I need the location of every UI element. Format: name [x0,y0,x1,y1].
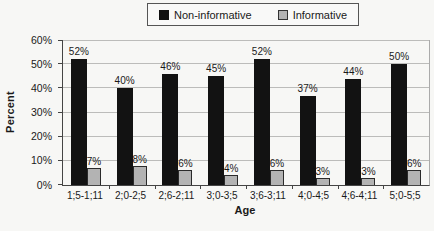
bar-group: 44%3% [338,40,384,185]
y-tick-label: 50% [0,59,52,70]
y-axis-tick [58,136,62,137]
legend-label-informative: Informative [293,9,347,21]
bar-non-informative: 52% [71,59,87,185]
y-tick-label: 10% [0,155,52,166]
bar-value-label: 40% [115,75,135,86]
y-tick-label: 60% [0,35,52,46]
bar-group: 52%6% [246,40,292,185]
bar-non-informative: 40% [117,88,133,185]
bar-value-label: 8% [132,154,146,165]
x-axis-tick [246,186,247,189]
y-tick-label: 20% [0,131,52,142]
x-axis-tick [292,186,293,189]
bar-value-label: 37% [298,83,318,94]
x-category-label: 5;0-5;5 [382,190,428,201]
bar-group: 37%3% [292,40,338,185]
y-axis-tick [58,40,62,41]
x-axis-title: Age [62,204,428,216]
bar-informative: 3% [361,178,375,185]
y-tick-label: 40% [0,83,52,94]
bar-group: 50%6% [383,40,429,185]
x-axis-tick [338,186,339,189]
bar-value-label: 6% [270,158,284,169]
bar-value-label: 44% [343,66,363,77]
bar-value-label: 3% [361,166,375,177]
plot-area: 52%7%40%8%46%6%45%4%52%6%37%3%44%3%50%6% [62,40,430,186]
informative-swatch-icon [278,10,288,20]
x-category-label: 4;0-4;5 [291,190,337,201]
bar-group: 52%7% [63,40,109,185]
y-axis-tick [58,184,62,185]
x-category-label: 4;6-4;11 [337,190,383,201]
x-category-label: 2;6-2;11 [154,190,200,201]
y-tick-label: 30% [0,107,52,118]
bar-value-label: 6% [407,158,421,169]
x-axis-tick [109,186,110,189]
x-category-label: 2;0-2;5 [108,190,154,201]
y-tick-label: 0% [0,180,52,191]
x-category-label: 3;6-3;11 [245,190,291,201]
y-axis-tick [58,87,62,88]
bar-groups: 52%7%40%8%46%6%45%4%52%6%37%3%44%3%50%6% [63,40,429,185]
bar-informative: 6% [270,170,284,185]
chart-legend: Non-informative Informative [147,3,359,26]
bar-informative: 4% [224,175,238,185]
bar-group: 45%4% [200,40,246,185]
non-informative-swatch-icon [159,10,169,20]
x-category-label: 1;5-1;11 [62,190,108,201]
bar-non-informative: 37% [300,96,316,185]
bar-chart-figure: Non-informative Informative Percent 0%10… [0,0,434,231]
bar-value-label: 7% [87,156,101,167]
bar-informative: 8% [133,166,147,185]
bar-group: 46%6% [155,40,201,185]
bar-informative: 6% [407,170,421,185]
bar-non-informative: 46% [162,74,178,185]
bar-value-label: 4% [224,163,238,174]
bar-value-label: 6% [178,158,192,169]
bar-value-label: 52% [69,46,89,57]
y-axis-tick [58,112,62,113]
bar-non-informative: 44% [345,79,361,185]
legend-item-non-informative: Non-informative [159,9,252,21]
bar-value-label: 45% [206,63,226,74]
bar-informative: 3% [316,178,330,185]
bar-non-informative: 45% [208,76,224,185]
bar-value-label: 50% [389,51,409,62]
bar-non-informative: 52% [254,59,270,185]
x-axis-tick [383,186,384,189]
x-category-label: 3;0-3;5 [199,190,245,201]
bar-value-label: 3% [315,166,329,177]
x-axis-labels: 1;5-1;112;0-2;52;6-2;113;0-3;53;6-3;114;… [62,190,428,201]
bar-non-informative: 50% [391,64,407,185]
bar-value-label: 52% [252,46,272,57]
x-axis-tick [155,186,156,189]
bar-informative: 7% [87,168,101,185]
bar-value-label: 46% [160,61,180,72]
bar-group: 40%8% [109,40,155,185]
x-axis-tick [200,186,201,189]
y-axis-tick [58,63,62,64]
bar-informative: 6% [178,170,192,185]
y-axis-tick [58,160,62,161]
y-axis: 0%10%20%30%40%50%60% [0,40,57,185]
legend-label-non-informative: Non-informative [174,9,252,21]
legend-item-informative: Informative [278,9,347,21]
